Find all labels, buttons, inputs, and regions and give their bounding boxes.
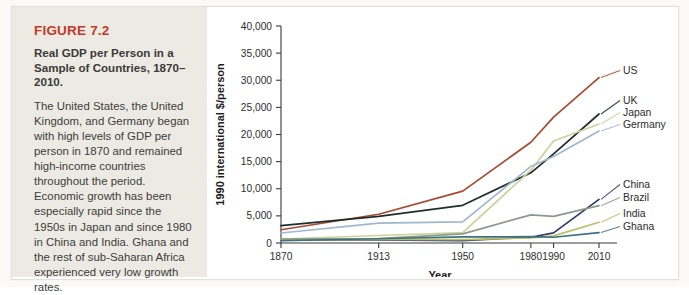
y-tick-label: 20,000 bbox=[241, 129, 272, 140]
series-leader-us bbox=[601, 71, 620, 78]
series-leader-japan bbox=[601, 113, 620, 125]
figure-title: Real GDP per Person in a Sample of Count… bbox=[34, 46, 194, 90]
x-axis-title: Year bbox=[428, 269, 452, 277]
y-tick-label: 30,000 bbox=[241, 75, 272, 86]
series-line-germany bbox=[281, 131, 599, 233]
y-axis-title: 1990 international $/person bbox=[214, 63, 226, 206]
y-tick-label: 35,000 bbox=[241, 48, 272, 59]
series-leader-germany bbox=[601, 125, 620, 131]
x-tick-label: 1950 bbox=[451, 251, 474, 262]
x-tick-label: 1913 bbox=[367, 251, 390, 262]
y-tick-label: 10,000 bbox=[241, 183, 272, 194]
series-leader-china bbox=[601, 185, 620, 200]
series-label-india: India bbox=[623, 208, 646, 219]
series-leader-india bbox=[601, 214, 620, 223]
y-tick-label: 15,000 bbox=[241, 156, 272, 167]
series-leader-uk bbox=[601, 101, 620, 115]
series-label-china: China bbox=[623, 179, 650, 190]
series-label-brazil: Brazil bbox=[623, 192, 649, 203]
series-line-us bbox=[281, 78, 599, 230]
figure-caption-text: The United States, the United Kingdom, a… bbox=[34, 99, 194, 295]
figure-number: FIGURE 7.2 bbox=[34, 23, 194, 38]
series-label-germany: Germany bbox=[623, 119, 667, 130]
y-tick-label: 40,000 bbox=[241, 21, 272, 32]
series-label-us: US bbox=[623, 65, 638, 76]
x-tick-label: 1870 bbox=[270, 251, 293, 262]
y-tick-label: 0 bbox=[266, 238, 272, 249]
series-label-ghana: Ghana bbox=[623, 221, 654, 232]
series-line-uk bbox=[281, 114, 599, 226]
x-tick-label: 2010 bbox=[588, 251, 611, 262]
line-chart: 05,00010,00015,00020,00025,00030,00035,0… bbox=[207, 7, 677, 277]
series-leader-brazil bbox=[601, 198, 620, 206]
series-label-uk: UK bbox=[623, 95, 638, 106]
x-tick-label: 1980 bbox=[520, 251, 543, 262]
chart-canvas: 05,00010,00015,00020,00025,00030,00035,0… bbox=[207, 7, 677, 277]
caption-panel: FIGURE 7.2 Real GDP per Person in a Samp… bbox=[12, 7, 207, 277]
x-tick-label: 1990 bbox=[542, 251, 565, 262]
y-tick-label: 25,000 bbox=[241, 102, 272, 113]
series-leader-ghana bbox=[601, 227, 620, 233]
y-tick-label: 5,000 bbox=[247, 210, 273, 221]
series-label-japan: Japan bbox=[623, 107, 652, 118]
